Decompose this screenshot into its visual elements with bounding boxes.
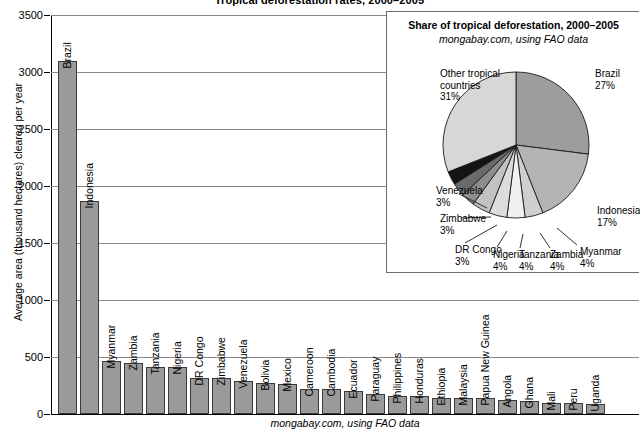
- bar-label: Ghana: [524, 377, 535, 409]
- y-tick-label: 500: [25, 351, 43, 363]
- bar-label: Ecuador: [348, 360, 359, 399]
- bar-label: Myanmar: [106, 325, 117, 369]
- pie-chart: Brazil27%Indonesia17%Myanmar4%Zambia4%Ta…: [387, 12, 640, 274]
- bar-label: Cameroon: [304, 347, 315, 396]
- y-tick-mark: [44, 243, 50, 244]
- bar: Cameroon: [300, 389, 319, 414]
- bar-label: Nigeria: [172, 342, 183, 375]
- y-axis-ticks: 3500300025002000150010005000: [0, 0, 43, 433]
- bar: Myanmar: [102, 361, 121, 414]
- bar-label: Uganda: [590, 375, 601, 412]
- bar-label: Mali: [546, 391, 557, 410]
- bar: Uganda: [586, 404, 605, 414]
- bar: Nigeria: [168, 367, 187, 414]
- bar: Indonesia: [80, 201, 99, 414]
- bar-label: DR Congo: [194, 336, 205, 385]
- bar-label: Venezuela: [238, 340, 249, 389]
- bar: Cambodia: [322, 389, 341, 414]
- bar: Tanzania: [146, 367, 165, 414]
- y-tick-label: 1000: [19, 294, 43, 306]
- bar: Venezuela: [234, 381, 253, 414]
- bar: Mali: [542, 403, 561, 414]
- bar: DR Congo: [190, 378, 209, 414]
- bar-label: Bolivia: [260, 360, 271, 391]
- bar: Philippines: [388, 396, 407, 414]
- bar: Zimbabwe: [212, 378, 231, 414]
- bar-label: Tanzania: [150, 333, 161, 375]
- bar-label: Malaysia: [458, 364, 469, 405]
- pie-inset-panel: Share of tropical deforestation, 2000–20…: [386, 11, 639, 273]
- bar-label: Honduras: [414, 358, 425, 404]
- bar-label: Papua New Guinea: [480, 315, 491, 406]
- bar-label: Cambodia: [326, 349, 337, 397]
- bar-label: Mexico: [282, 359, 293, 392]
- y-tick-mark: [44, 129, 50, 130]
- y-tick-mark: [44, 357, 50, 358]
- y-tick-mark: [44, 15, 50, 16]
- pie-leader-line: [465, 225, 497, 243]
- y-tick-mark: [44, 72, 50, 73]
- bar-label: Zambia: [128, 336, 139, 371]
- bar-label: Ethiopia: [436, 367, 447, 405]
- bar: Paraguay: [366, 394, 385, 414]
- source-credit: mongabay.com, using FAO data: [51, 417, 639, 429]
- y-tick-label: 1500: [19, 237, 43, 249]
- y-tick-mark: [44, 186, 50, 187]
- bar: Brazil: [58, 61, 77, 414]
- bar-label: Indonesia: [84, 163, 95, 209]
- pie-leader-line: [520, 234, 523, 248]
- y-tick-label: 2500: [19, 123, 43, 135]
- y-tick-label: 3000: [19, 66, 43, 78]
- pie-slice: [516, 72, 589, 154]
- bar-label: Peru: [568, 389, 579, 411]
- y-tick-mark: [44, 300, 50, 301]
- pie-leader-line: [540, 233, 550, 248]
- bar-label: Angola: [502, 375, 513, 408]
- bar: Papua New Guinea: [476, 398, 495, 414]
- x-axis-line: [51, 414, 639, 415]
- bar: Honduras: [410, 396, 429, 414]
- bar: Mexico: [278, 384, 297, 414]
- y-tick-label: 2000: [19, 180, 43, 192]
- y-tick-label: 3500: [19, 9, 43, 21]
- bar: Zambia: [124, 363, 143, 414]
- chart-title: Tropical deforestation rates, 2000–2005: [0, 0, 639, 6]
- bar: Ethiopia: [432, 398, 451, 414]
- bar: Angola: [498, 400, 517, 414]
- pie-leader-line: [557, 228, 577, 245]
- bar-label: Philippines: [392, 353, 403, 404]
- bar-label: Paraguay: [370, 356, 381, 401]
- pie-svg: [387, 12, 640, 274]
- bar-label: Brazil: [62, 42, 73, 68]
- bar: Malaysia: [454, 398, 473, 414]
- bar: Peru: [564, 403, 583, 414]
- bar: Ecuador: [344, 391, 363, 414]
- y-tick-mark: [44, 414, 50, 415]
- y-tick-label: 0: [37, 408, 43, 420]
- bar: Bolivia: [256, 383, 275, 414]
- bar-label: Zimbabwe: [216, 337, 227, 385]
- bar: Ghana: [520, 401, 539, 414]
